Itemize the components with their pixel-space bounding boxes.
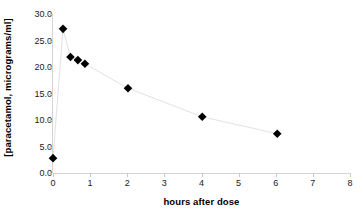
data-point-marker [81, 60, 90, 69]
chart-container: [paracetamol, micrograms/ml] 0.05.010.01… [0, 0, 363, 220]
data-point-marker [66, 53, 75, 62]
data-point-marker [124, 84, 133, 93]
plot-area [0, 0, 363, 220]
data-series-svg [0, 0, 363, 220]
data-point-marker [74, 56, 83, 65]
series-markers [49, 25, 282, 163]
data-point-marker [273, 129, 282, 138]
x-axis-title: hours after dose [53, 196, 350, 207]
series-line [53, 29, 277, 158]
data-point-marker [59, 25, 68, 34]
data-point-marker [49, 154, 58, 163]
data-point-marker [198, 113, 207, 122]
